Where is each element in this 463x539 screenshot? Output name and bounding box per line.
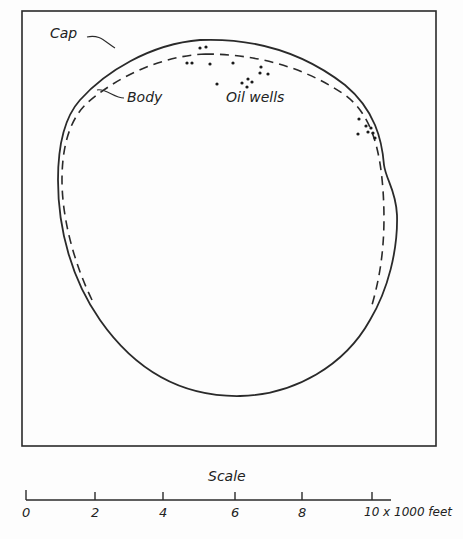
scale-tick-8: 8 [298,505,306,520]
diagram-canvas: Cap Body Oil wells Scale 0 2 4 6 8 10 x … [0,0,463,539]
salt-dome-diagram [0,0,463,539]
scale-tick-4: 4 [159,505,167,520]
map-frame [22,11,436,446]
scale-tick-0: 0 [22,505,30,520]
scale-tick-6: 6 [231,505,239,520]
scale-bar [26,490,391,500]
scale-title: Scale [208,468,246,484]
cap-leader-line [87,36,115,48]
body-outline [62,54,384,305]
scale-tick-2: 2 [91,505,99,520]
body-label: Body [127,89,162,105]
oil-wells-label: Oil wells [226,89,284,105]
cap-label: Cap [50,25,77,41]
scale-tick-10: 10 x 1000 feet [364,505,452,519]
